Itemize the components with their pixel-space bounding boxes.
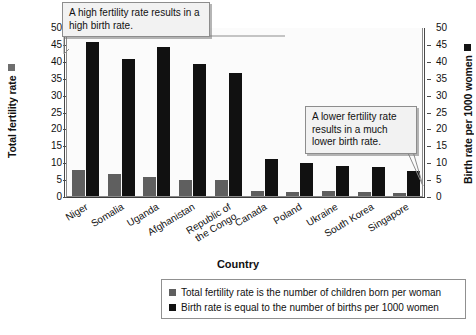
y-axis-left-title: Total fertility rate [6,36,18,186]
y-axis-left-tick-mark [63,197,67,198]
x-axis-title: Country [0,258,476,270]
y-axis-left-tick-label: 5 [42,175,62,185]
bar-total-fertility-rate [179,180,192,196]
y-axis-left-tick-label: 10 [42,158,62,168]
bar-group [210,28,246,196]
y-axis-left-title-text: Total fertility rate [6,76,18,158]
y-axis-right-ticks: 50454035302520151050 [428,28,450,197]
y-axis-right-tick-mark [427,163,431,164]
y-axis-right-tick-label: 30 [436,91,456,101]
y-axis-right-tick-mark [427,45,431,46]
bar-total-fertility-rate [358,192,371,196]
y-axis-right-tick-label: 45 [436,40,456,50]
legend-swatch-icon [169,289,176,296]
y-axis-right-tick-label: 0 [436,192,456,202]
y-axis-left-tick-label: 40 [42,57,62,67]
y-axis-right-tick-mark [427,96,431,97]
y-axis-right-line [424,28,425,198]
legend-item-label: Total fertility rate is the number of ch… [181,287,441,298]
bar-birth-rate [372,167,385,196]
y-axis-left-tick-label: 0 [42,192,62,202]
y-axis-right-swatch-icon [465,44,472,51]
bar-total-fertility-rate [72,170,85,196]
legend-item: Birth rate is equal to the number of bir… [169,300,465,315]
y-axis-left-tick-label: 35 [42,74,62,84]
bar-birth-rate [193,64,206,196]
bar-group [246,28,282,196]
y-axis-right-tick-mark [427,62,431,63]
y-axis-right-tick-label: 50 [436,23,456,33]
bar-total-fertility-rate [143,177,156,196]
y-axis-right-tick-mark [427,146,431,147]
legend-item: Total fertility rate is the number of ch… [169,285,465,300]
y-axis-right-tick-label: 15 [436,141,456,151]
bar-total-fertility-rate [393,193,406,196]
y-axis-left-swatch-icon [9,64,16,71]
bar-total-fertility-rate [322,191,335,196]
bar-birth-rate [86,42,99,196]
y-axis-right-tick-mark [427,180,431,181]
bar-group [174,28,210,196]
callout-high-fertility: A high fertility rate results in a high … [62,2,210,37]
fertility-birth-rate-chart: Total fertility rate Birth rate per 1000… [0,0,476,335]
bar-birth-rate [407,171,420,196]
y-axis-right-tick-label: 20 [436,124,456,134]
callout-low-fertility: A lower fertility rate results in a much… [305,106,417,154]
legend-swatch-icon [169,304,176,311]
bar-group [67,28,103,196]
y-axis-right-title-text: Birth rate per 1000 women [462,56,474,185]
bar-total-fertility-rate [286,192,299,196]
y-axis-right-title: Birth rate per 1000 women [462,16,474,212]
y-axis-left-tick-label: 25 [42,108,62,118]
legend: Total fertility rate is the number of ch… [161,279,466,319]
y-axis-left-tick-label: 45 [42,40,62,50]
y-axis-right-tick-label: 40 [436,57,456,67]
bar-birth-rate [122,59,135,196]
y-axis-right-tick-mark [427,113,431,114]
y-axis-right-tick-label: 10 [436,158,456,168]
y-axis-left-tick-label: 15 [42,141,62,151]
bar-total-fertility-rate [108,174,121,196]
bar-birth-rate [336,166,349,196]
y-axis-right-tick-mark [427,79,431,80]
bar-total-fertility-rate [215,180,228,196]
y-axis-left-tick-label: 50 [42,23,62,33]
bar-birth-rate [300,163,313,196]
y-axis-left-ticks: 50454035302520151050 [40,28,62,197]
bar-total-fertility-rate [251,191,264,196]
bar-birth-rate [265,159,278,196]
y-axis-right-tick-label: 25 [436,108,456,118]
y-axis-right-tick-mark [427,129,431,130]
y-axis-left-tick-label: 20 [42,124,62,134]
x-axis-category-labels: NigerSomaliaUgandaAfghanistanRepublic of… [66,199,423,259]
bar-birth-rate [157,47,170,196]
y-axis-right-tick-label: 35 [436,74,456,84]
legend-item-label: Birth rate is equal to the number of bir… [181,302,439,313]
x-axis-line [64,197,425,198]
bar-group [103,28,139,196]
y-axis-right-tick-mark [427,197,431,198]
bar-birth-rate [229,73,242,196]
bar-group [138,28,174,196]
y-axis-left-tick-label: 30 [42,91,62,101]
y-axis-right-tick-label: 5 [436,175,456,185]
